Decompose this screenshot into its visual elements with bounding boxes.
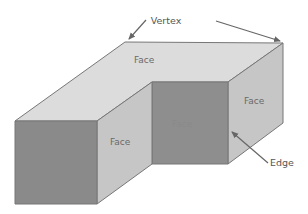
inner-front-face-label: Face xyxy=(172,119,193,129)
vertex-callout-label: Vertex xyxy=(151,15,182,26)
top-face-label: Face xyxy=(134,55,155,65)
vertex-arrow-right xyxy=(216,21,280,41)
front-left-side-face-label: Face xyxy=(110,137,131,147)
l-shaped-solid-diagram: Face Face Face Face Face Vertex Edge xyxy=(0,0,308,214)
edge-callout-label: Edge xyxy=(270,157,294,168)
front-left-face-label: Face xyxy=(41,158,62,168)
right-side-face-label: Face xyxy=(244,96,265,106)
vertex-arrow-left xyxy=(129,20,146,39)
